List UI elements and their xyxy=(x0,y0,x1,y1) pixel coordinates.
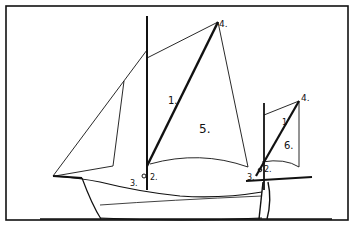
label-main-luff: 1. xyxy=(168,95,178,106)
label-main-tack-3: 3. xyxy=(130,179,138,188)
main-tack-ring xyxy=(142,174,146,178)
label-mizzen-tack-2: 2. xyxy=(264,165,272,174)
label-main-sail: 5. xyxy=(199,122,210,136)
label-mizzen-peak: 4. xyxy=(301,93,310,103)
label-mizzen-tack-3: 3. xyxy=(247,173,255,182)
main-sail xyxy=(147,22,248,167)
label-mizzen-sail: 6. xyxy=(284,140,294,151)
mizzen-sail xyxy=(256,101,299,176)
label-mizzen-luff: 1 xyxy=(282,118,287,127)
diagram-frame xyxy=(6,6,348,220)
sailboat-diagram: 4. 1. 5. 3. 2. 4. 1 6. 3. 2. xyxy=(0,0,353,232)
jib-sail xyxy=(53,50,147,176)
label-main-tack-2: 2. xyxy=(150,173,158,182)
label-main-peak: 4. xyxy=(219,19,228,29)
